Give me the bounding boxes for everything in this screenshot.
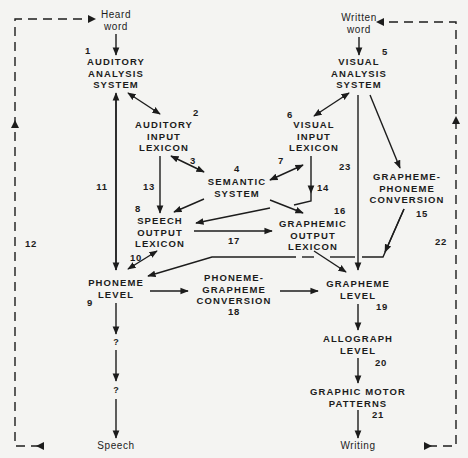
route-number-1: 1 <box>85 45 91 56</box>
dashed-arrowhead-writing <box>424 442 432 450</box>
dashed-loop-22 <box>384 22 456 446</box>
dashed-loop-12 <box>15 19 88 446</box>
arrow-semantic-to-speech-output <box>174 199 204 212</box>
route-number-18: 18 <box>228 306 240 317</box>
route-number-16: 16 <box>334 205 346 216</box>
arrow-15-out <box>362 209 404 257</box>
route-number-8: 8 <box>135 203 141 214</box>
phoneme-grapheme-conversion: PHONEME-GRAPHEMECONVERSION <box>197 272 272 307</box>
arrow-gpc-down <box>385 209 404 252</box>
route-number-11: 11 <box>96 181 108 192</box>
visual-input-lexicon: VISUALINPUTLEXICON <box>289 119 339 154</box>
grapheme-level: GRAPHEMELEVEL <box>326 278 390 301</box>
route-number-7: 7 <box>278 155 284 166</box>
auditory-analysis-system: AUDITORYANALYSISSYSTEM <box>87 56 145 91</box>
route-number-17: 17 <box>228 235 240 246</box>
route-number-9: 9 <box>87 297 93 308</box>
route-number-2: 2 <box>193 107 199 118</box>
route-number-3: 3 <box>190 155 196 166</box>
route-number-13: 13 <box>143 181 155 192</box>
route-number-20: 20 <box>375 357 387 368</box>
route-number-10: 10 <box>130 252 142 263</box>
arrow-2 <box>128 93 160 114</box>
route-number-21: 21 <box>372 409 384 420</box>
arrow-semantic-to-graphemic-output <box>270 200 303 213</box>
unknown-stage-1: ? <box>113 337 119 347</box>
dashed-arrowhead-heard <box>88 15 96 23</box>
dashed-arrowhead-speech <box>36 442 44 450</box>
arrow-graphemic-output-to-grapheme <box>314 251 346 272</box>
graphemic-output-lexicon: GRAPHEMICOUTPUTLEXICON <box>279 218 347 253</box>
speech-output-lexicon: SPEECHOUTPUTLEXICON <box>135 215 185 250</box>
route-number-6: 6 <box>287 109 293 120</box>
route-number-22: 22 <box>435 236 447 247</box>
visual-analysis-system: VISUALANALYSISSYSTEM <box>331 56 387 91</box>
graphic-motor-patterns: GRAPHIC MOTORPATTERNS <box>310 386 406 409</box>
route-number-4: 4 <box>234 163 240 174</box>
dashed-arrowhead-12-up <box>11 120 19 128</box>
allograph-level: ALLOGRAPHLEVEL <box>323 333 393 356</box>
route-number-15: 15 <box>416 208 428 219</box>
unknown-stage-2: ? <box>113 385 119 395</box>
route-number-5: 5 <box>382 46 388 57</box>
route-number-12: 12 <box>25 238 37 249</box>
arrow-to-speech-output <box>196 208 270 223</box>
auditory-input-lexicon: AUDITORYINPUTLEXICON <box>135 119 193 154</box>
route-number-14: 14 <box>317 182 329 193</box>
heard-word-label: Heardword <box>101 9 131 33</box>
writing-output-label: Writing <box>340 440 375 452</box>
semantic-system: SEMANTICSYSTEM <box>208 176 266 199</box>
route-number-19: 19 <box>376 301 388 312</box>
arrow-visual-to-gpc <box>370 95 400 168</box>
arrow-14-corner <box>294 193 311 205</box>
phoneme-level: PHONEMELEVEL <box>88 277 144 300</box>
route-number-23: 23 <box>339 161 351 172</box>
cognitive-language-model-diagram: Heardword Writtenword AUDITORYANALYSISSY… <box>0 0 468 458</box>
speech-output-label: Speech <box>97 440 135 452</box>
grapheme-phoneme-conversion: GRAPHEME-PHONEMECONVERSION <box>370 171 445 206</box>
arrow-7 <box>270 165 303 180</box>
arrow-3 <box>171 156 204 172</box>
dashed-arrowhead-22-up <box>452 116 460 124</box>
arrow-6 <box>314 93 349 116</box>
written-word-label: Writtenword <box>341 12 377 36</box>
dashed-arrowhead-written <box>376 18 384 26</box>
